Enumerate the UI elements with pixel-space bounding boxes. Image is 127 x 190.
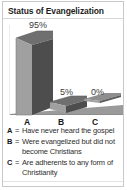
bar-b — [50, 96, 87, 113]
bar-value-c: 0% — [91, 87, 104, 97]
legend-key-c: C — [7, 158, 15, 168]
chart-figure: Status of Evangelization — [0, 0, 127, 190]
legend-equals: = — [15, 126, 22, 136]
legend-equals: = — [15, 158, 22, 168]
legend-key-b: B — [7, 137, 15, 147]
legend-item: B = Were evangelized but did not become … — [7, 137, 121, 158]
legend-key-a: A — [7, 126, 15, 136]
bar-group — [3, 19, 123, 120]
legend-equals: = — [15, 137, 22, 147]
legend-description-a: Have never heard the gospel — [22, 126, 121, 137]
bottom-divider — [3, 181, 123, 182]
plot-area: 95% 5% 0% A B C — [3, 19, 123, 120]
legend-description-b: Were evangelized but did not become Chri… — [22, 137, 121, 158]
legend-description-c: Are adherents to any form of Christianit… — [22, 158, 121, 179]
legend-item: C = Are adherents to any form of Christi… — [7, 158, 121, 179]
bar-value-a: 95% — [29, 20, 47, 30]
chart-legend: A = Have never heard the gospel B = Were… — [7, 126, 121, 179]
chart-title: Status of Evangelization — [8, 6, 104, 16]
bar-value-b: 5% — [60, 87, 73, 97]
bar-a — [16, 31, 53, 115]
legend-item: A = Have never heard the gospel — [7, 126, 121, 137]
